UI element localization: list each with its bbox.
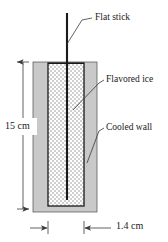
horizontal-dimension-label: 1.4 cm	[116, 221, 143, 231]
flavored-ice-label: Flavored ice	[106, 75, 153, 85]
flat-stick-label: Flat stick	[95, 13, 130, 23]
flat-stick-leader-line	[67, 18, 92, 44]
popsicle-cross-section-figure: Flat stick Flavored ice Cooled wall 15 c…	[0, 0, 168, 242]
vertical-dimension-label: 15 cm	[4, 120, 31, 132]
cooled-wall-label: Cooled wall	[106, 123, 152, 133]
